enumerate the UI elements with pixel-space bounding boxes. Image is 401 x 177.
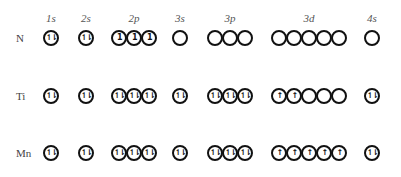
paired-orbital-icon: ↿⇂ [111, 145, 127, 161]
element-label-Mn: Mn [16, 147, 31, 159]
orbital-electrons: 1 [147, 34, 151, 42]
paired-orbital-icon: ↿⇂ [43, 88, 59, 104]
empty-orbital-icon [364, 30, 380, 46]
orbital-group-Mn-3d: ↑↑↑↑↑ [271, 145, 347, 161]
single-electron-orbital-icon: 1 [141, 30, 157, 46]
orbital-group-N-2p: 111 [111, 30, 157, 46]
subshell-header-4s: 4s [367, 12, 377, 24]
paired-orbital-icon: ↿⇂ [172, 88, 188, 104]
orbital-electrons: ↿⇂ [46, 34, 56, 42]
empty-orbital-icon [237, 30, 253, 46]
orbital-electrons: ↑ [291, 92, 296, 100]
subshell-header-2p: 2p [129, 12, 140, 24]
orbital-group-N-3p [207, 30, 253, 46]
paired-orbital-icon: ↿⇂ [207, 145, 223, 161]
orbital-group-Ti-1s: ↿⇂ [43, 88, 59, 104]
spin-up-orbital-icon: ↑ [301, 145, 317, 161]
orbital-electrons: 1 [132, 34, 136, 42]
empty-orbital-icon [301, 88, 317, 104]
empty-orbital-icon [331, 88, 347, 104]
orbital-electrons: ↿⇂ [81, 149, 91, 157]
orbital-group-Mn-4s: ↿⇂ [364, 145, 380, 161]
element-label-Ti: Ti [16, 90, 25, 102]
paired-orbital-icon: ↿⇂ [43, 30, 59, 46]
orbital-electrons: ↿⇂ [175, 92, 185, 100]
orbital-group-Ti-3p: ↿⇂↿⇂↿⇂ [207, 88, 253, 104]
orbital-group-Ti-3d: ↑↑ [271, 88, 347, 104]
orbital-electrons: ↿⇂ [225, 92, 235, 100]
spin-up-orbital-icon: ↑ [316, 145, 332, 161]
paired-orbital-icon: ↿⇂ [222, 145, 238, 161]
empty-orbital-icon [207, 30, 223, 46]
subshell-header-2s: 2s [81, 12, 91, 24]
orbital-electrons: ↿⇂ [225, 149, 235, 157]
orbital-group-Mn-3p: ↿⇂↿⇂↿⇂ [207, 145, 253, 161]
orbital-electrons: ↿⇂ [114, 92, 124, 100]
orbital-electrons: ↿⇂ [114, 149, 124, 157]
paired-orbital-icon: ↿⇂ [43, 145, 59, 161]
orbital-electrons: ↿⇂ [129, 149, 139, 157]
single-electron-orbital-icon: 1 [111, 30, 127, 46]
orbital-electrons: ↿⇂ [210, 92, 220, 100]
orbital-electrons: ↑ [321, 149, 326, 157]
orbital-electrons: ↿⇂ [46, 92, 56, 100]
paired-orbital-icon: ↿⇂ [141, 88, 157, 104]
element-label-N: N [16, 32, 24, 44]
orbital-electrons: ↑ [291, 149, 296, 157]
orbital-group-N-3s [172, 30, 188, 46]
paired-orbital-icon: ↿⇂ [364, 145, 380, 161]
subshell-header-3p: 3p [225, 12, 236, 24]
paired-orbital-icon: ↿⇂ [207, 88, 223, 104]
orbital-electrons: ↿⇂ [367, 92, 377, 100]
orbital-electrons: ↿⇂ [46, 149, 56, 157]
spin-up-orbital-icon: ↑ [286, 145, 302, 161]
orbital-group-Ti-2s: ↿⇂ [78, 88, 94, 104]
empty-orbital-icon [172, 30, 188, 46]
orbital-electrons: ↿⇂ [240, 149, 250, 157]
paired-orbital-icon: ↿⇂ [126, 145, 142, 161]
subshell-header-3d: 3d [304, 12, 315, 24]
orbital-group-Mn-1s: ↿⇂ [43, 145, 59, 161]
paired-orbital-icon: ↿⇂ [141, 145, 157, 161]
single-electron-orbital-icon: 1 [126, 30, 142, 46]
orbital-group-N-1s: ↿⇂ [43, 30, 59, 46]
paired-orbital-icon: ↿⇂ [172, 145, 188, 161]
paired-orbital-icon: ↿⇂ [78, 30, 94, 46]
orbital-group-Ti-3s: ↿⇂ [172, 88, 188, 104]
paired-orbital-icon: ↿⇂ [126, 88, 142, 104]
orbital-electrons: ↿⇂ [367, 149, 377, 157]
empty-orbital-icon [301, 30, 317, 46]
paired-orbital-icon: ↿⇂ [78, 145, 94, 161]
empty-orbital-icon [316, 30, 332, 46]
orbital-electrons: ↑ [336, 149, 341, 157]
orbital-electrons: ↑ [276, 92, 281, 100]
empty-orbital-icon [316, 88, 332, 104]
orbital-group-Ti-2p: ↿⇂↿⇂↿⇂ [111, 88, 157, 104]
paired-orbital-icon: ↿⇂ [364, 88, 380, 104]
empty-orbital-icon [331, 30, 347, 46]
paired-orbital-icon: ↿⇂ [237, 88, 253, 104]
orbital-group-N-2s: ↿⇂ [78, 30, 94, 46]
paired-orbital-icon: ↿⇂ [237, 145, 253, 161]
paired-orbital-icon: ↿⇂ [111, 88, 127, 104]
paired-orbital-icon: ↿⇂ [78, 88, 94, 104]
spin-up-orbital-icon: ↑ [271, 145, 287, 161]
orbital-group-N-3d [271, 30, 347, 46]
orbital-group-N-4s [364, 30, 380, 46]
spin-up-orbital-icon: ↑ [271, 88, 287, 104]
subshell-header-1s: 1s [46, 12, 56, 24]
orbital-electrons: 1 [117, 34, 121, 42]
orbital-electrons: ↿⇂ [129, 92, 139, 100]
orbital-electrons: ↑ [306, 149, 311, 157]
paired-orbital-icon: ↿⇂ [222, 88, 238, 104]
orbital-electrons: ↿⇂ [175, 149, 185, 157]
empty-orbital-icon [222, 30, 238, 46]
empty-orbital-icon [271, 30, 287, 46]
orbital-electrons: ↿⇂ [81, 92, 91, 100]
orbital-group-Ti-4s: ↿⇂ [364, 88, 380, 104]
orbital-electrons: ↑ [276, 149, 281, 157]
orbital-electrons: ↿⇂ [144, 149, 154, 157]
orbital-electrons: ↿⇂ [144, 92, 154, 100]
orbital-group-Mn-2p: ↿⇂↿⇂↿⇂ [111, 145, 157, 161]
subshell-header-3s: 3s [175, 12, 185, 24]
